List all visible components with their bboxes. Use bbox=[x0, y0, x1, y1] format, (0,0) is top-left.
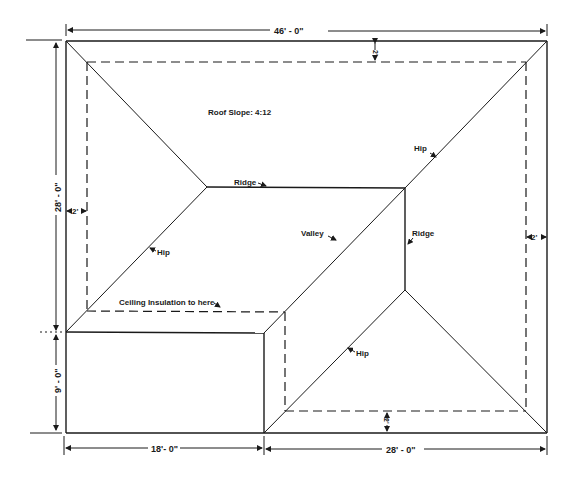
dimension-overhang-bottom: 2' bbox=[383, 413, 390, 431]
valley-label: Valley bbox=[301, 229, 324, 238]
hip-leader-left bbox=[150, 248, 156, 251]
hip-label-upper-right: Hip bbox=[414, 144, 427, 153]
roof-slope-label: Roof Slope: 4:12 bbox=[208, 108, 272, 117]
svg-text:46' - 0": 46' - 0" bbox=[274, 26, 303, 36]
dimension-overhang-right: 2' bbox=[527, 233, 546, 242]
dimension-overhang-left: 2' bbox=[67, 207, 86, 216]
ceiling-insulation-leader bbox=[214, 303, 220, 307]
hip-label-left: Hip bbox=[157, 248, 170, 257]
dimension-overall-width: 46' - 0" bbox=[66, 24, 547, 36]
ridge-leader-vertical bbox=[408, 238, 413, 244]
ceiling-insulation-label: Ceiling Insulation to here bbox=[119, 298, 215, 307]
dimension-lower-left-width: 18'- 0" bbox=[151, 444, 178, 454]
svg-text:2': 2' bbox=[383, 418, 390, 424]
ridge-label-vertical: Ridge bbox=[412, 229, 435, 238]
hip-leader-lower bbox=[348, 348, 355, 352]
svg-text:9' - 0": 9' - 0" bbox=[53, 369, 63, 393]
hip-label-lower: Hip bbox=[356, 349, 369, 358]
dimension-overhang-top: 2' bbox=[372, 43, 379, 60]
ridge-horizontal bbox=[207, 187, 405, 188]
svg-text:28' - 0": 28' - 0" bbox=[53, 183, 63, 212]
dimension-lower-right-width: 28' - 0" bbox=[386, 445, 415, 455]
valley-leader bbox=[328, 236, 336, 240]
svg-text:2': 2' bbox=[72, 207, 78, 216]
ridge-leader-horizontal bbox=[258, 183, 266, 186]
hip-leader-upper-right bbox=[430, 153, 436, 157]
svg-text:2': 2' bbox=[531, 233, 537, 242]
dimension-upper-depth: 28' - 0" bbox=[26, 40, 63, 330]
svg-text:2': 2' bbox=[372, 50, 379, 56]
dimension-lower-left-depth: 9' - 0" bbox=[30, 332, 63, 433]
roof-plan-diagram: Roof Slope: 4:12 Hip Ridge Hip Valley Ri… bbox=[0, 0, 570, 477]
dimension-lower-widths: 18'- 0" 28' - 0" bbox=[64, 436, 547, 455]
ridge-label-horizontal: Ridge bbox=[234, 178, 257, 187]
